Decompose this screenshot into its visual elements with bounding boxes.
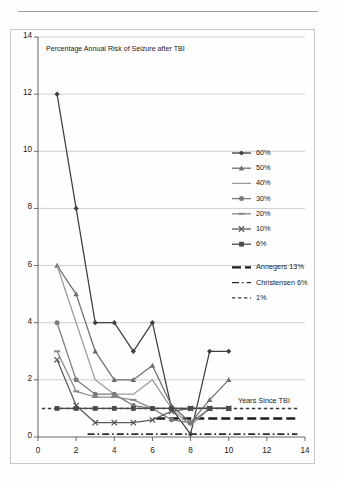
marker-diamond	[207, 349, 212, 354]
marker-square	[93, 406, 98, 411]
x-tick-label-2: 2	[64, 446, 88, 455]
y-tick-label-0: 0	[0, 431, 32, 440]
marker-diamond	[54, 92, 59, 97]
marker-square	[239, 242, 244, 247]
marker-square	[207, 406, 212, 411]
x-tick-label-0: 0	[26, 446, 50, 455]
x-tick-label-4: 4	[102, 446, 126, 455]
x-axis-label: Years Since TBI	[238, 396, 290, 405]
marker-circle	[169, 417, 174, 422]
marker-square	[74, 406, 79, 411]
marker-circle	[188, 420, 193, 425]
y-tick-label-10: 10	[0, 145, 32, 154]
chart-title: Percentage Annual Risk of Seizure after …	[46, 45, 185, 53]
y-tick-label-12: 12	[0, 88, 32, 97]
marker-diamond	[74, 206, 79, 211]
marker-circle	[74, 377, 79, 382]
marker-square	[169, 406, 174, 411]
marker-diamond	[93, 320, 98, 325]
marker-circle	[239, 196, 244, 201]
marker-square	[55, 406, 60, 411]
seizure-risk-line-chart	[0, 0, 337, 485]
legend-label-6[interactable]: 6%	[256, 239, 267, 248]
marker-dash	[73, 390, 79, 392]
chart-container: 0246810121402468101214Percentage Annual …	[0, 0, 337, 485]
series-40pct	[57, 266, 229, 426]
series-10pct	[54, 357, 231, 425]
marker-circle	[55, 320, 60, 325]
x-tick-label-12: 12	[255, 446, 279, 455]
legend-label-20[interactable]: 20%	[256, 209, 271, 218]
marker-square	[112, 406, 117, 411]
legend-entry-20[interactable]	[232, 213, 251, 215]
x-tick-label-10: 10	[217, 446, 241, 455]
series-line-60pct	[57, 94, 229, 434]
x-tick-label-6: 6	[140, 446, 164, 455]
marker-square	[150, 406, 155, 411]
series-line-40pct	[57, 266, 229, 426]
series-60pct	[54, 92, 231, 437]
series-50pct	[54, 263, 231, 425]
y-tick-label-8: 8	[0, 202, 32, 211]
x-tick-label-14: 14	[293, 446, 317, 455]
marker-triangle	[150, 363, 155, 368]
marker-dash	[239, 213, 245, 215]
legend-entry-6[interactable]	[232, 242, 251, 247]
legend-label-10[interactable]: 10%	[256, 224, 271, 233]
legend-label-annegers-13[interactable]: Annegers 13%	[256, 262, 304, 271]
legend-label-1[interactable]: 1%	[256, 293, 267, 302]
legend-label-christensen-6[interactable]: Christensen 6%	[256, 278, 308, 287]
marker-square	[131, 406, 136, 411]
marker-diamond	[226, 349, 231, 354]
marker-dash	[130, 399, 136, 401]
legend-entry-50[interactable]	[232, 165, 251, 170]
legend-label-40[interactable]: 40%	[256, 178, 271, 187]
marker-triangle	[93, 348, 98, 353]
x-tick-label-8: 8	[179, 446, 203, 455]
legend-entry-30[interactable]	[232, 196, 251, 201]
y-tick-label-14: 14	[0, 31, 32, 40]
legend-entry-10[interactable]	[232, 226, 251, 231]
legend-label-50[interactable]: 50%	[256, 163, 271, 172]
y-tick-label-2: 2	[0, 374, 32, 383]
y-tick-label-4: 4	[0, 317, 32, 326]
marker-dash	[54, 350, 60, 352]
legend-label-60[interactable]: 60%	[256, 148, 271, 157]
marker-square	[226, 406, 231, 411]
y-tick-label-6: 6	[0, 260, 32, 269]
marker-dash	[92, 396, 98, 398]
marker-dash	[111, 396, 117, 398]
marker-square	[188, 406, 193, 411]
legend-label-30[interactable]: 30%	[256, 194, 271, 203]
marker-circle	[112, 392, 117, 397]
marker-x	[54, 357, 59, 362]
